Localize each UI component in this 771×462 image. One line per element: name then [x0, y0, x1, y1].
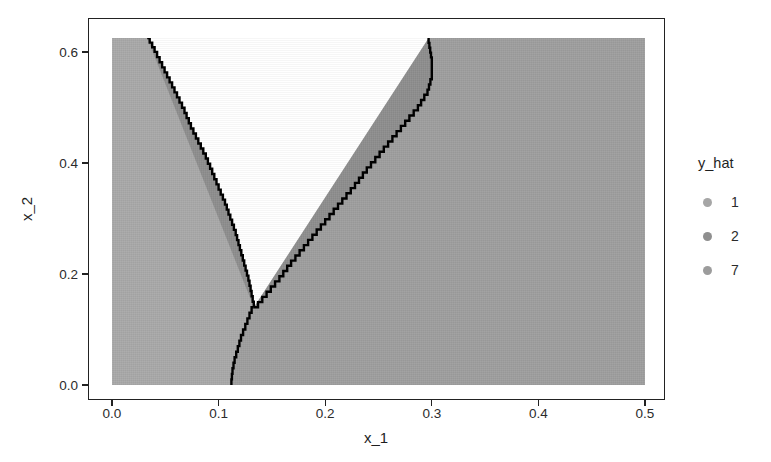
y-tick-mark — [82, 162, 88, 163]
y-tick-mark — [82, 273, 88, 274]
legend-item-label: 1 — [731, 194, 739, 210]
legend-items: 127 — [688, 185, 764, 287]
x-tick-label: 0.2 — [316, 406, 335, 421]
decision-region-svg — [112, 38, 645, 385]
legend-item[interactable]: 2 — [688, 219, 764, 253]
y-axis-title: x_2 — [18, 197, 35, 221]
x-tick-label: 0.5 — [636, 406, 655, 421]
x-axis-title: x_1 — [364, 429, 388, 446]
x-tick-label: 0.0 — [103, 406, 122, 421]
decision-region-raster — [112, 38, 645, 385]
legend-dot — [703, 232, 712, 241]
legend-title: y_hat — [698, 155, 764, 171]
y-tick-label: 0.0 — [59, 378, 78, 393]
legend-point-icon — [696, 225, 718, 247]
legend-item-label: 2 — [731, 228, 739, 244]
legend-dot — [703, 198, 712, 207]
x-tick-label: 0.1 — [209, 406, 228, 421]
legend-item-label: 7 — [731, 262, 739, 278]
y-tick-label: 0.6 — [59, 44, 78, 59]
legend-item[interactable]: 1 — [688, 185, 764, 219]
y-tick-mark — [82, 51, 88, 52]
legend-dot — [703, 266, 712, 275]
legend-point-icon — [696, 191, 718, 213]
chart-root: 0.00.10.20.30.40.5 0.00.20.40.6 x_1 x_2 … — [0, 0, 771, 462]
legend: y_hat 127 — [688, 155, 764, 287]
x-tick-label: 0.3 — [422, 406, 441, 421]
legend-item[interactable]: 7 — [688, 253, 764, 287]
legend-point-icon — [696, 259, 718, 281]
y-tick-label: 0.2 — [59, 266, 78, 281]
y-tick-label: 0.4 — [59, 155, 78, 170]
x-tick-label: 0.4 — [529, 406, 548, 421]
y-tick-mark — [82, 384, 88, 385]
